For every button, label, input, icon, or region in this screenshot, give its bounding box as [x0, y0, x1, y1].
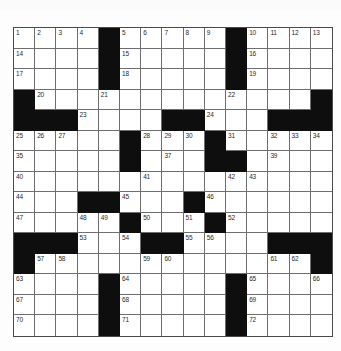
grid-cell[interactable]: [311, 69, 332, 90]
grid-cell[interactable]: 25: [14, 131, 35, 152]
grid-cell[interactable]: [268, 274, 289, 295]
grid-cell[interactable]: 56: [205, 233, 226, 254]
grid-cell[interactable]: [311, 315, 332, 336]
grid-cell[interactable]: [120, 254, 141, 275]
grid-cell[interactable]: 4: [78, 28, 99, 49]
grid-cell[interactable]: [162, 295, 183, 316]
grid-cell[interactable]: 71: [120, 315, 141, 336]
grid-cell[interactable]: [78, 172, 99, 193]
grid-cell[interactable]: [184, 254, 205, 275]
grid-cell[interactable]: 60: [162, 254, 183, 275]
grid-cell[interactable]: [205, 172, 226, 193]
grid-cell[interactable]: 26: [35, 131, 56, 152]
grid-cell[interactable]: [311, 151, 332, 172]
grid-cell[interactable]: [311, 49, 332, 70]
grid-cell[interactable]: 62: [290, 254, 311, 275]
grid-cell[interactable]: [35, 274, 56, 295]
grid-cell[interactable]: [35, 172, 56, 193]
grid-cell[interactable]: 31: [226, 131, 247, 152]
grid-cell[interactable]: [162, 192, 183, 213]
grid-cell[interactable]: [311, 213, 332, 234]
grid-cell[interactable]: [78, 274, 99, 295]
grid-cell[interactable]: [56, 172, 77, 193]
grid-cell[interactable]: [311, 192, 332, 213]
grid-cell[interactable]: 58: [56, 254, 77, 275]
grid-cell[interactable]: [162, 90, 183, 111]
grid-cell[interactable]: [99, 131, 120, 152]
grid-cell[interactable]: 40: [14, 172, 35, 193]
grid-cell[interactable]: [268, 49, 289, 70]
grid-cell[interactable]: 10: [247, 28, 268, 49]
grid-cell[interactable]: [290, 213, 311, 234]
grid-cell[interactable]: [162, 172, 183, 193]
grid-cell[interactable]: 2: [35, 28, 56, 49]
grid-cell[interactable]: 6: [141, 28, 162, 49]
grid-cell[interactable]: [247, 151, 268, 172]
grid-cell[interactable]: [35, 213, 56, 234]
grid-cell[interactable]: [141, 110, 162, 131]
grid-cell[interactable]: [141, 151, 162, 172]
grid-cell[interactable]: [247, 254, 268, 275]
grid-cell[interactable]: [35, 295, 56, 316]
grid-cell[interactable]: 50: [141, 213, 162, 234]
grid-cell[interactable]: [205, 49, 226, 70]
grid-cell[interactable]: 11: [268, 28, 289, 49]
grid-cell[interactable]: [290, 49, 311, 70]
grid-cell[interactable]: 21: [99, 90, 120, 111]
grid-cell[interactable]: 30: [184, 131, 205, 152]
grid-cell[interactable]: [184, 90, 205, 111]
grid-cell[interactable]: [247, 213, 268, 234]
grid-cell[interactable]: [290, 172, 311, 193]
grid-cell[interactable]: [268, 69, 289, 90]
grid-cell[interactable]: [311, 295, 332, 316]
grid-cell[interactable]: 28: [141, 131, 162, 152]
grid-cell[interactable]: [247, 131, 268, 152]
grid-cell[interactable]: [226, 233, 247, 254]
grid-cell[interactable]: [311, 172, 332, 193]
grid-cell[interactable]: [78, 90, 99, 111]
grid-cell[interactable]: 7: [162, 28, 183, 49]
grid-cell[interactable]: 63: [14, 274, 35, 295]
grid-cell[interactable]: 52: [226, 213, 247, 234]
grid-cell[interactable]: [78, 131, 99, 152]
grid-cell[interactable]: 17: [14, 69, 35, 90]
grid-cell[interactable]: 13: [311, 28, 332, 49]
grid-cell[interactable]: [99, 172, 120, 193]
grid-cell[interactable]: [120, 172, 141, 193]
grid-cell[interactable]: [141, 274, 162, 295]
grid-cell[interactable]: 69: [247, 295, 268, 316]
grid-cell[interactable]: 55: [184, 233, 205, 254]
grid-cell[interactable]: [226, 110, 247, 131]
grid-cell[interactable]: [120, 110, 141, 131]
grid-cell[interactable]: [290, 315, 311, 336]
grid-cell[interactable]: [205, 295, 226, 316]
grid-cell[interactable]: [141, 69, 162, 90]
grid-cell[interactable]: [162, 69, 183, 90]
grid-cell[interactable]: [184, 69, 205, 90]
grid-cell[interactable]: 35: [14, 151, 35, 172]
grid-cell[interactable]: [35, 69, 56, 90]
grid-cell[interactable]: [184, 274, 205, 295]
grid-cell[interactable]: [162, 213, 183, 234]
grid-cell[interactable]: [141, 90, 162, 111]
grid-cell[interactable]: 67: [14, 295, 35, 316]
grid-cell[interactable]: [290, 90, 311, 111]
grid-cell[interactable]: 53: [78, 233, 99, 254]
grid-cell[interactable]: 18: [120, 69, 141, 90]
grid-cell[interactable]: 57: [35, 254, 56, 275]
grid-cell[interactable]: [290, 295, 311, 316]
grid-cell[interactable]: 32: [268, 131, 289, 152]
grid-cell[interactable]: 65: [247, 274, 268, 295]
grid-cell[interactable]: [56, 213, 77, 234]
grid-cell[interactable]: 5: [120, 28, 141, 49]
grid-cell[interactable]: 66: [311, 274, 332, 295]
grid-cell[interactable]: 41: [141, 172, 162, 193]
grid-cell[interactable]: [56, 49, 77, 70]
grid-cell[interactable]: 51: [184, 213, 205, 234]
grid-cell[interactable]: 59: [141, 254, 162, 275]
grid-cell[interactable]: 14: [14, 49, 35, 70]
grid-cell[interactable]: 20: [35, 90, 56, 111]
grid-cell[interactable]: 48: [78, 213, 99, 234]
grid-cell[interactable]: 68: [120, 295, 141, 316]
grid-cell[interactable]: [268, 172, 289, 193]
